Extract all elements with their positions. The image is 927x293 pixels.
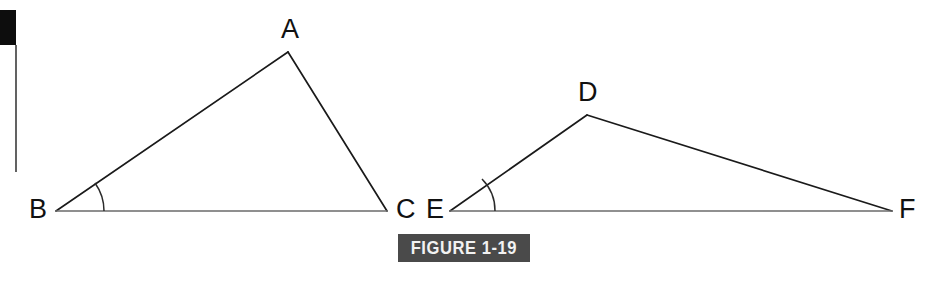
angle-arc-b: [95, 183, 104, 211]
vertex-label-c: C: [396, 194, 416, 224]
triangle-def: D E F: [426, 77, 916, 224]
vertex-label-b: B: [29, 194, 47, 224]
triangle-abc: A B C: [29, 14, 416, 224]
vertex-label-e: E: [426, 194, 444, 224]
vertex-label-f: F: [899, 194, 916, 224]
segment-ed: [450, 115, 587, 211]
figure-caption-badge: FIGURE 1-19: [398, 234, 530, 262]
segment-ba: [56, 52, 288, 211]
vertex-label-d: D: [578, 77, 598, 107]
vertex-label-a: A: [281, 14, 299, 44]
figure-container: A B C D E F FIGURE 1-19: [0, 0, 927, 293]
segment-df: [587, 115, 892, 211]
segment-ac: [288, 52, 387, 211]
figure-caption-text: FIGURE 1-19: [411, 238, 517, 259]
page-corner-block: [0, 10, 16, 45]
